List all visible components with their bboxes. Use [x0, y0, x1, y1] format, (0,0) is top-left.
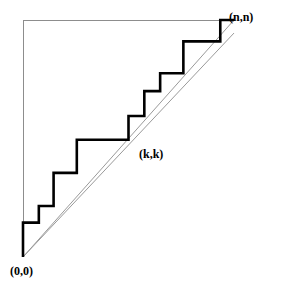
label-endpoint-n: (n,n) [229, 11, 253, 23]
label-midpoint-k: (k,k) [139, 148, 163, 160]
diagonal-lower-line [23, 33, 234, 257]
staircase-figure: (0,0) (k,k) (n,n) [0, 0, 299, 297]
label-origin: (0,0) [10, 265, 33, 277]
